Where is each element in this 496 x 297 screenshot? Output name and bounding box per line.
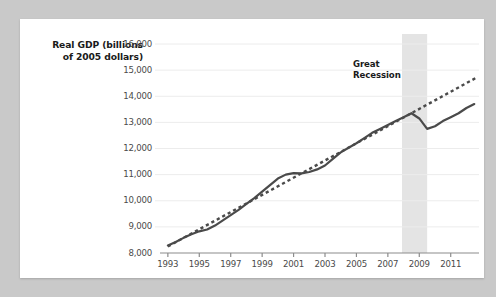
figure-card: Real GDP (billions of 2005 dollars) Grea…	[20, 19, 484, 278]
chart-svg	[20, 19, 484, 278]
y-axis-tick-label: 12,000	[92, 143, 152, 153]
y-axis-tick-label: 10,000	[92, 195, 152, 205]
y-axis-tick-label: 16,000	[92, 39, 152, 49]
y-axis-tick-label: 14,000	[92, 91, 152, 101]
y-axis-tick-label: 8,000	[92, 248, 152, 258]
y-axis-tick-label: 9,000	[92, 221, 152, 231]
x-axis-tick-label: 2011	[431, 259, 471, 269]
y-axis-tick-label: 11,000	[92, 169, 152, 179]
recession-shaded-band	[402, 34, 427, 253]
y-axis-tick-label: 15,000	[92, 65, 152, 75]
trend-line-series	[168, 78, 476, 247]
y-axis-tick-label: 13,000	[92, 117, 152, 127]
plot-area	[20, 19, 484, 278]
